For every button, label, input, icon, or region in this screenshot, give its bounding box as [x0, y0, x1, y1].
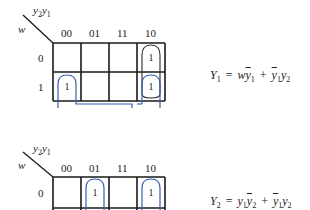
cell-r0-c10: 1 — [146, 188, 156, 198]
kmap-2-lines — [0, 0, 310, 210]
equation-y2: Y2 = y1y2 + y1y2 — [210, 194, 292, 210]
col-var-label: y2y1 — [33, 143, 51, 158]
row-var-label: w — [18, 160, 25, 171]
cell-r0-c01: 1 — [90, 188, 100, 198]
col-label-10: 10 — [145, 163, 156, 174]
col-label-11: 11 — [117, 163, 128, 174]
row-label-0: 0 — [38, 188, 44, 199]
col-label-00: 00 — [61, 163, 72, 174]
col-label-01: 01 — [89, 163, 100, 174]
